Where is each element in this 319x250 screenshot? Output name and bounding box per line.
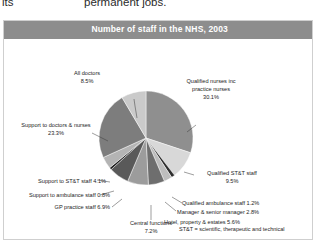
slice-label-qualified-nurses: Qualified nurses inc practice nurses 30.… [172,77,250,101]
slice-label-support-stt: Support to ST&T staff 4.1% [9,177,106,185]
slice-label-support-doctors-nurses: Support to doctors & nurses 23.3% [12,121,100,137]
slice-label-central-functions: Central functions 7.2% [116,219,186,235]
slice-label-gp-practice: GP practice staff 6.9% [20,203,110,211]
pie-slice-group [99,91,193,185]
page-text-fragment-right: permanent jobs. [84,0,166,8]
slice-label-qualified-ambulance: Qualified ambulance staff 1.2% [182,199,259,207]
slice-label-support-ambulance: Support to ambulance staff 0.8% [6,191,110,199]
slice-label-manager: Manager & senior manager 2.8% [177,208,259,216]
slice-label-qualified-stt: Qualified ST&T staff 9.5% [196,169,268,185]
chart-footnote: ST&T = scientific, therapeutic and techn… [179,226,285,232]
chart-panel: Number of staff in the NHS, 2003 All doc… [3,20,313,240]
slice-label-all-doctors: All doctors 8.5% [56,69,118,85]
page-text-fragment-left: its [2,0,14,8]
